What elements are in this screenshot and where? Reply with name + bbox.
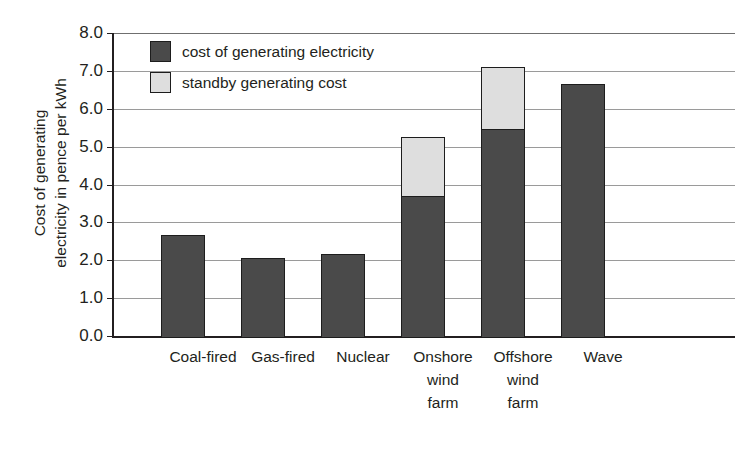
- bar-group-0: [161, 235, 205, 336]
- bar-group-2: [321, 254, 365, 336]
- y-axis-label-0.0: 0.0: [79, 326, 103, 346]
- bar-group-3: [401, 137, 445, 336]
- y-axis-label-8.0: 8.0: [79, 23, 103, 43]
- bar-group-1: [241, 258, 285, 336]
- x-axis-label-4-line-1: wind: [473, 368, 573, 391]
- y-axis-label-3.0: 3.0: [79, 212, 103, 232]
- bar-segment-cost-2: [321, 254, 365, 337]
- bar-segment-cost-0: [161, 235, 205, 337]
- y-axis-tick-5.0: [107, 147, 114, 148]
- y-axis-label-2.0: 2.0: [79, 250, 103, 270]
- x-axis-label-4-line-2: farm: [473, 391, 573, 414]
- legend-label-0: cost of generating electricity: [182, 43, 374, 61]
- y-axis-label-5.0: 5.0: [79, 137, 103, 157]
- bar-segment-cost-3: [401, 196, 445, 338]
- y-axis-tick-1.0: [107, 298, 114, 299]
- legend-item-standby-generating-cost: standby generating cost: [150, 67, 480, 98]
- bar-segment-cost-5: [561, 84, 605, 338]
- chart-legend: cost of generating electricity standby g…: [150, 36, 480, 98]
- legend-swatch-icon-dark: [150, 41, 171, 62]
- y-axis-label-4.0: 4.0: [79, 175, 103, 195]
- bar-chart: Cost of generating electricity in pence …: [0, 0, 754, 449]
- y-axis-title-line-2: electricity in pence per kWh: [50, 78, 71, 268]
- y-axis-tick-0.0: [107, 336, 114, 337]
- legend-swatch-icon-light: [150, 72, 171, 93]
- bar-segment-cost-4: [481, 129, 525, 337]
- bar-segment-cost-1: [241, 258, 285, 338]
- y-axis-label-7.0: 7.0: [79, 61, 103, 81]
- y-axis-tick-2.0: [107, 260, 114, 261]
- x-axis-labels: Coal-firedGas-firedNuclearOnshorewindfar…: [112, 345, 733, 445]
- y-axis-title-line-1: Cost of generating: [29, 78, 50, 268]
- y-axis-tick-7.0: [107, 71, 114, 72]
- y-axis-label-1.0: 1.0: [79, 288, 103, 308]
- bar-group-4: [481, 67, 525, 337]
- y-axis-label-6.0: 6.0: [79, 99, 103, 119]
- y-axis-tick-8.0: [107, 33, 114, 34]
- bar-segment-standby-4: [481, 67, 525, 131]
- y-axis-tick-6.0: [107, 109, 114, 110]
- x-axis-label-5-line-0: Wave: [553, 345, 653, 368]
- y-axis-tick-3.0: [107, 222, 114, 223]
- legend-item-cost-of-generating-electricity: cost of generating electricity: [150, 36, 480, 67]
- bar-segment-standby-3: [401, 137, 445, 198]
- y-axis-tick-4.0: [107, 185, 114, 186]
- legend-label-1: standby generating cost: [182, 74, 347, 92]
- x-axis-label-5: Wave: [553, 345, 653, 368]
- bar-group-5: [561, 84, 605, 336]
